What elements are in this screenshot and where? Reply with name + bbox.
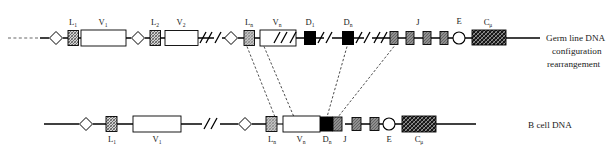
- bcell-leader-box-Ln: [266, 117, 277, 132]
- bcell-caption-line-1: B cell DNA: [528, 120, 572, 130]
- bcell-j-box-3: [370, 118, 379, 131]
- germline-caption-line-3: rearrangement: [547, 59, 600, 69]
- recombination-connector-lines: [247, 47, 394, 118]
- bcell-rss-diamond-1: [80, 118, 93, 131]
- connector-J: [338, 47, 394, 118]
- bcell-break-marks: [204, 118, 217, 129]
- germline-j-box-1: [390, 32, 398, 45]
- bcell-v-box-Vn: [283, 116, 320, 132]
- label-Cmu: Cμ: [484, 17, 493, 28]
- germline-d-box-Dn: [342, 31, 354, 45]
- germline-j-box-3: [423, 32, 431, 45]
- bcell-label-V1: V1: [152, 134, 161, 145]
- bcell-dna-row: L1 V1 Ln Vn Dn J E Cμ B cell DNA: [44, 116, 572, 145]
- bcell-v-box-V1: [133, 116, 181, 132]
- bcell-label-Cmu: Cμ: [415, 134, 424, 145]
- bcell-enhancer-circle: [383, 118, 395, 130]
- label-J: J: [416, 17, 420, 27]
- germline-caption-line-1: Germ line DNA: [546, 33, 606, 43]
- bcell-label-E: E: [386, 134, 391, 144]
- bcell-rss-diamond-2: [239, 118, 252, 131]
- connector-Vn: [264, 47, 294, 118]
- label-V2: V2: [176, 17, 185, 28]
- label-Ln: Ln: [245, 17, 253, 28]
- bcell-d-box-Dn: [320, 117, 333, 132]
- label-V1: V1: [98, 17, 107, 28]
- vdj-recombination-figure: L1 V1 L2 V2 Ln Vn D1 Dn J E Cμ Germ line…: [0, 0, 608, 158]
- germline-j-box-4: [440, 32, 448, 45]
- label-L1: L1: [69, 17, 77, 28]
- germline-segment-labels: L1 V1 L2 V2 Ln Vn D1 Dn J E Cμ: [69, 16, 492, 28]
- germline-leader-box-L2: [150, 31, 161, 46]
- label-L2: L2: [151, 17, 159, 28]
- germline-j-box-2: [406, 32, 414, 45]
- bcell-label-Ln: Ln: [268, 134, 276, 145]
- germline-d-box-D1: [304, 31, 316, 45]
- connector-Ln: [247, 47, 275, 118]
- germline-enhancer-circle: [453, 32, 465, 44]
- bcell-label-Dn: Dn: [322, 134, 331, 145]
- germline-caption-line-2: configuration: [552, 46, 602, 56]
- connector-Dn: [327, 47, 347, 118]
- rss-diamond-3: [225, 32, 238, 45]
- germline-v-box-V2: [165, 31, 198, 46]
- bcell-label-L1: L1: [108, 134, 116, 145]
- germline-constant-box-Cmu: [472, 30, 506, 45]
- figure-canvas: L1 V1 L2 V2 Ln Vn D1 Dn J E Cμ Germ line…: [0, 0, 608, 158]
- label-Dn: Dn: [343, 17, 352, 28]
- bcell-constant-box-Cmu: [402, 116, 436, 132]
- bcell-j-box-1: [333, 117, 342, 131]
- label-E: E: [456, 16, 461, 26]
- germline-v-box-V1: [81, 30, 126, 46]
- germline-leader-box-Ln: [244, 31, 255, 46]
- bcell-j-box-2: [352, 118, 361, 131]
- bcell-leader-box-L1: [106, 117, 117, 132]
- germline-dna-row: L1 V1 L2 V2 Ln Vn D1 Dn J E Cμ Germ line…: [8, 16, 606, 69]
- rss-diamond-2: [132, 32, 145, 45]
- rss-diamond-1: [50, 32, 63, 45]
- germline-leader-box-L1: [68, 31, 79, 46]
- bcell-label-Vn: Vn: [296, 134, 305, 145]
- label-Vn: Vn: [272, 17, 281, 28]
- bcell-label-J: J: [343, 134, 347, 144]
- label-D1: D1: [305, 17, 314, 28]
- germline-side-caption: Germ line DNA configuration rearrangemen…: [546, 33, 606, 69]
- bcell-segment-labels: L1 V1 Ln Vn Dn J E Cμ: [108, 134, 423, 145]
- germline-v-box-Vn: [260, 30, 296, 46]
